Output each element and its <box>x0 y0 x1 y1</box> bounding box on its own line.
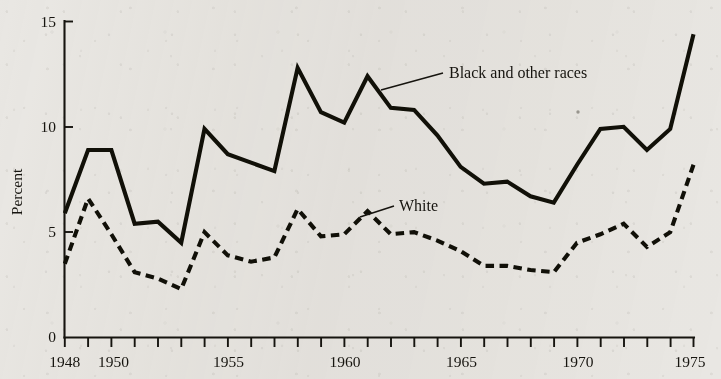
x-tick-label-1955: 1955 <box>213 353 244 370</box>
series-line-white <box>65 165 694 289</box>
line-chart-plot: Percent 15 10 5 0 <box>0 0 721 379</box>
x-tick-marks <box>65 338 694 348</box>
series-annotation-white: White <box>399 197 438 214</box>
x-tick-label-1950: 1950 <box>98 353 129 370</box>
print-speck <box>576 110 579 113</box>
y-tick-label-15: 15 <box>41 13 57 30</box>
x-tick-label-1960: 1960 <box>330 353 361 370</box>
chart-figure: Percent 15 10 5 0 <box>0 0 721 379</box>
y-axis-title: Percent <box>8 168 25 215</box>
series-annotation-black-and-other-races: Black and other races <box>449 64 587 81</box>
y-tick-label-0: 0 <box>48 328 56 345</box>
y-tick-label-5: 5 <box>48 223 56 240</box>
leader-line-black-and-other-races <box>381 73 443 90</box>
x-tick-label-1975: 1975 <box>675 353 706 370</box>
x-tick-label-1965: 1965 <box>446 353 477 370</box>
x-tick-label-1970: 1970 <box>563 353 594 370</box>
y-tick-label-10: 10 <box>41 118 57 135</box>
x-tick-label-1948: 1948 <box>49 353 80 370</box>
